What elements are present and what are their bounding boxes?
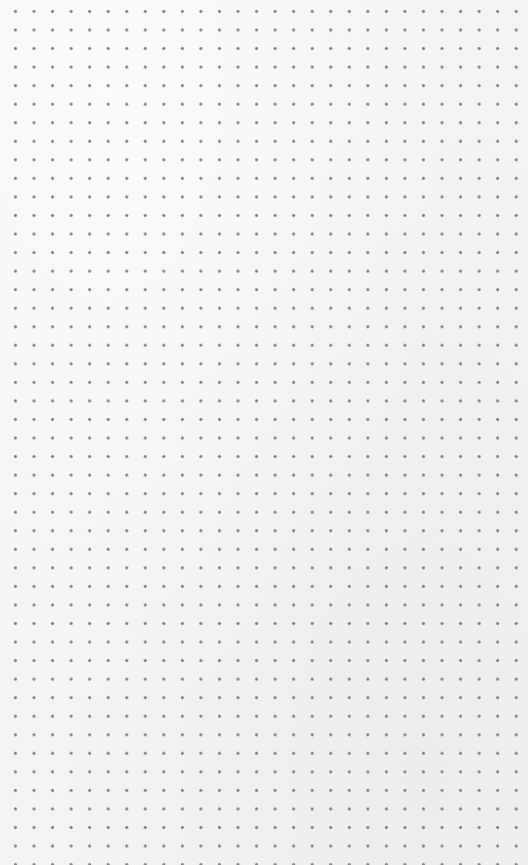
- dot-grid-canvas[interactable]: Empty dotted grid canvas: [0, 0, 528, 865]
- canvas-label: Empty dotted grid canvas: [0, 0, 1, 1]
